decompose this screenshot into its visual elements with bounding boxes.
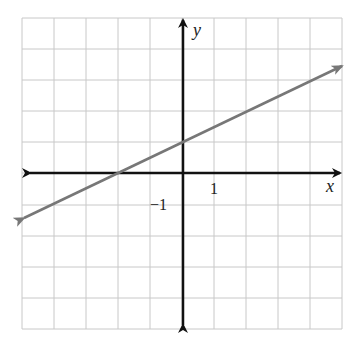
x-axis-label: x [325,176,334,196]
y-tick-label: −1 [150,196,167,213]
x-tick-label: 1 [210,180,218,197]
y-axis-label: y [191,20,201,40]
coordinate-plane: y x 1 −1 [0,0,360,341]
